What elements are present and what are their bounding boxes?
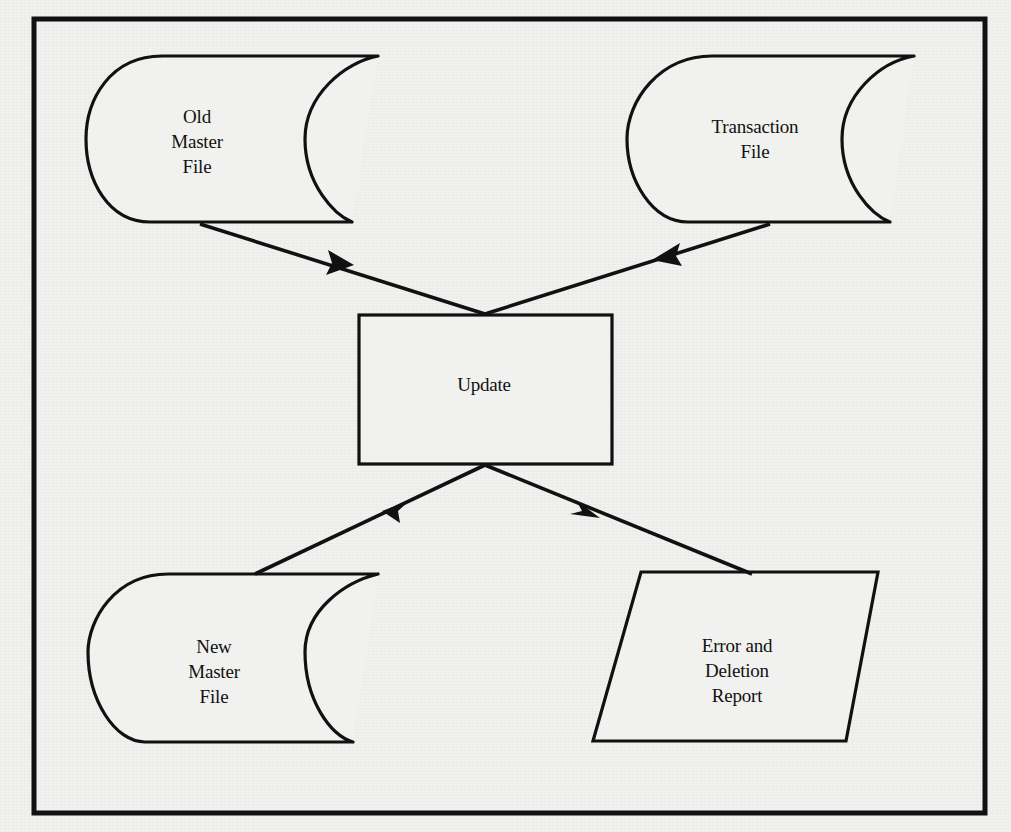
old-master-file-shape[interactable]: [86, 56, 378, 222]
old-master-file-label: Old Master File: [171, 104, 223, 179]
connector-update-to-error-report: [485, 465, 752, 574]
connector-update-to-new-master: [255, 465, 485, 574]
arrowhead-icon: [382, 501, 409, 523]
connector-old-master-to-update: [200, 224, 485, 314]
update-label: Update: [457, 372, 511, 397]
connector-transaction-to-update: [485, 224, 770, 314]
transaction-file-label: Transaction File: [712, 114, 799, 164]
error-report-label: Error and Deletion Report: [702, 633, 772, 708]
flowchart-canvas: [0, 0, 1011, 832]
new-master-file-label: New Master File: [188, 634, 240, 709]
